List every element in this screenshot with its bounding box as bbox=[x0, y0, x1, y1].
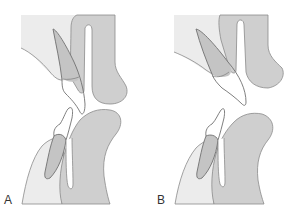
panel-a bbox=[21, 15, 127, 204]
panel-b bbox=[174, 15, 283, 204]
diagram-canvas bbox=[0, 0, 293, 215]
upper-lip-b bbox=[219, 15, 283, 88]
upper-lip-a bbox=[71, 15, 127, 104]
panel-label-b: B bbox=[157, 194, 165, 206]
panel-label-a: A bbox=[4, 194, 12, 206]
